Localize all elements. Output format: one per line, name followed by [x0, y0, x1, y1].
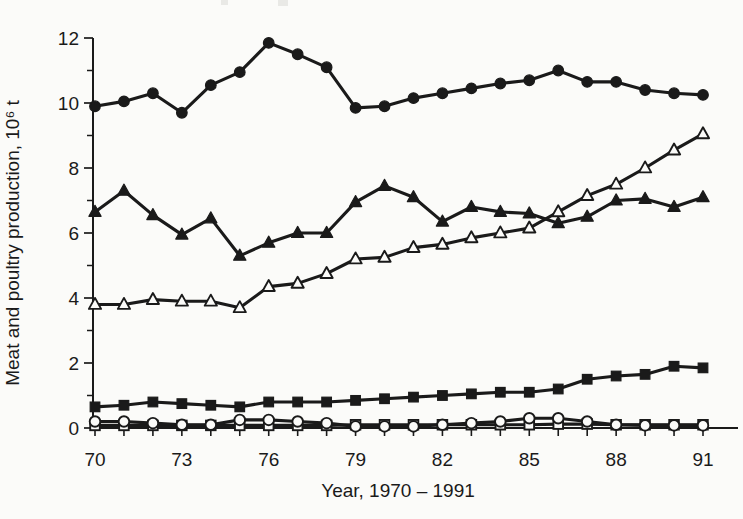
- filled-circle-marker: [177, 107, 188, 118]
- filled-circle-marker: [553, 65, 564, 76]
- y-tick-label: 8: [68, 158, 79, 179]
- open-circle-marker: [466, 418, 477, 429]
- series-filled-square: [90, 361, 708, 411]
- x-tick-label: 91: [692, 449, 713, 470]
- x-axis-label: Year, 1970 – 1991: [321, 480, 475, 501]
- filled-square-marker: [640, 370, 650, 380]
- x-tick-label: 73: [171, 449, 192, 470]
- filled-square-marker: [119, 400, 129, 410]
- filled-square-marker: [351, 396, 361, 406]
- filled-circle-marker: [698, 90, 709, 101]
- filled-square-marker: [582, 374, 592, 384]
- y-tick-label: 6: [68, 223, 79, 244]
- filled-square-marker: [611, 371, 621, 381]
- filled-circle-marker: [437, 88, 448, 99]
- open-circle-marker: [206, 419, 217, 430]
- filled-circle-marker: [206, 80, 217, 91]
- filled-triangle-marker: [118, 184, 130, 195]
- filled-circle-marker: [524, 75, 535, 86]
- y-tick-label: 4: [68, 288, 79, 309]
- filled-square-marker: [322, 397, 332, 407]
- scan-artifact: [221, 0, 228, 5]
- filled-circle-marker: [611, 77, 622, 88]
- y-tick-label: 2: [68, 353, 79, 374]
- filled-circle-marker: [582, 77, 593, 88]
- filled-circle-marker: [640, 85, 651, 96]
- chart-canvas: 0246810127073767982858891 Meat and poult…: [0, 0, 743, 519]
- open-circle-marker: [408, 421, 419, 432]
- open-circle-marker: [698, 420, 709, 431]
- series-filled-circle: [90, 38, 709, 118]
- filled-square-marker: [264, 397, 274, 407]
- filled-square-marker: [293, 397, 303, 407]
- filled-triangle-marker: [697, 191, 709, 202]
- filled-circle-marker: [466, 83, 477, 94]
- open-circle-marker: [524, 413, 535, 424]
- open-circle-marker: [321, 418, 332, 429]
- x-tick-label: 70: [84, 449, 105, 470]
- filled-square-marker: [409, 392, 419, 402]
- scan-artifact: [278, 0, 288, 6]
- filled-square-marker: [524, 387, 534, 397]
- figure: 0246810127073767982858891 Meat and poult…: [0, 0, 743, 519]
- open-circle-marker: [292, 416, 303, 427]
- filled-square-marker: [669, 361, 679, 371]
- open-circle-marker: [119, 416, 130, 427]
- y-tick-label: 12: [58, 28, 79, 49]
- x-tick-label: 76: [258, 449, 279, 470]
- x-tick-label: 82: [432, 449, 453, 470]
- filled-circle-marker: [263, 38, 274, 49]
- filled-square-marker: [467, 389, 477, 399]
- open-circle-marker: [263, 415, 274, 426]
- y-axis-label: Meat and poultry production, 10⁶ t: [2, 99, 23, 385]
- y-tick-label: 0: [68, 418, 79, 439]
- open-triangle-marker: [697, 127, 709, 138]
- open-circle-marker: [495, 416, 506, 427]
- filled-square-marker: [177, 399, 187, 409]
- open-circle-marker: [437, 419, 448, 430]
- filled-square-marker: [206, 400, 216, 410]
- filled-square-marker: [148, 397, 158, 407]
- open-circle-marker: [379, 421, 390, 432]
- filled-circle-marker: [669, 88, 680, 99]
- filled-square-marker: [496, 387, 506, 397]
- filled-circle-marker: [234, 67, 245, 78]
- filled-square-marker: [235, 402, 245, 412]
- filled-circle-marker: [292, 49, 303, 60]
- filled-circle-marker: [148, 88, 159, 99]
- filled-circle-marker: [119, 96, 130, 107]
- filled-square-marker: [90, 402, 100, 412]
- filled-square-marker: [553, 384, 563, 394]
- open-circle-marker: [553, 413, 564, 424]
- series-filled-triangle: [89, 179, 709, 260]
- x-tick-label: 85: [519, 449, 540, 470]
- filled-triangle-marker: [205, 212, 217, 223]
- filled-circle-marker: [495, 78, 506, 89]
- series-line: [95, 186, 703, 256]
- filled-square-marker: [698, 363, 708, 373]
- open-circle-marker: [640, 420, 651, 431]
- x-tick-label: 88: [606, 449, 627, 470]
- filled-circle-marker: [90, 101, 101, 112]
- open-circle-marker: [350, 421, 361, 432]
- series-open-triangle: [89, 127, 709, 312]
- y-tick-label: 10: [58, 93, 79, 114]
- open-circle-marker: [90, 416, 101, 427]
- open-circle-marker: [611, 419, 622, 430]
- open-circle-marker: [177, 419, 188, 430]
- series-line: [95, 43, 703, 113]
- series-line: [95, 134, 703, 308]
- filled-square-marker: [438, 391, 448, 401]
- open-circle-marker: [669, 420, 680, 431]
- filled-triangle-marker: [465, 200, 477, 211]
- filled-circle-marker: [379, 101, 390, 112]
- open-circle-marker: [234, 415, 245, 426]
- filled-triangle-marker: [378, 179, 390, 190]
- open-circle-marker: [582, 416, 593, 427]
- series-layer: [89, 38, 709, 432]
- open-circle-marker: [148, 418, 159, 429]
- filled-circle-marker: [321, 62, 332, 73]
- filled-square-marker: [380, 394, 390, 404]
- x-tick-label: 79: [345, 449, 366, 470]
- filled-circle-marker: [408, 93, 419, 104]
